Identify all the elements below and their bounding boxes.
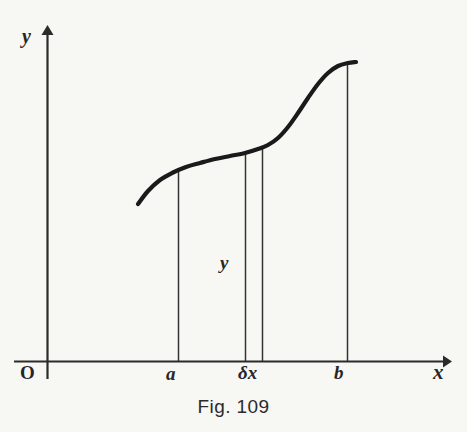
x-axis-label: x <box>433 362 444 383</box>
figure-container: y x O a δx b y Fig. 109 <box>0 0 467 432</box>
x-tick-label-delta-x: δx <box>238 363 257 382</box>
y-axis-label: y <box>22 26 31 46</box>
y-axis-arrow-icon <box>42 25 54 35</box>
origin-label: O <box>20 363 35 382</box>
x-axis-arrow-icon <box>443 356 452 368</box>
figure-caption: Fig. 109 <box>0 396 467 418</box>
function-curve <box>138 62 356 204</box>
x-tick-label-a: a <box>166 364 176 383</box>
ordinate-label-y: y <box>220 253 228 272</box>
x-tick-label-b: b <box>334 363 344 382</box>
figure-plot <box>0 0 467 432</box>
